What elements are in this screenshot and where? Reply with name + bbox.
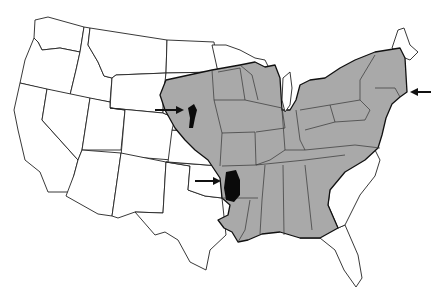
black-patch-oklahoma-arkansas — [224, 170, 240, 202]
state-washington — [34, 17, 84, 52]
state-new-mexico — [112, 153, 166, 218]
state-north-dakota — [166, 40, 218, 73]
lake-michigan — [282, 72, 292, 112]
arrow-new-england — [410, 88, 431, 96]
state-wyoming — [110, 73, 166, 113]
us-distribution-map — [0, 0, 444, 297]
